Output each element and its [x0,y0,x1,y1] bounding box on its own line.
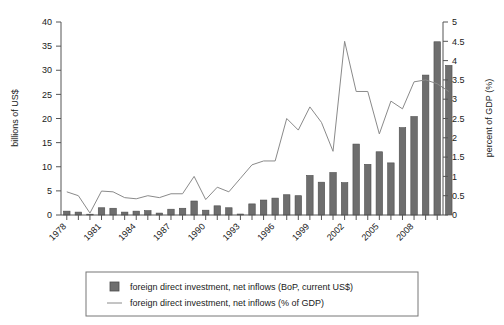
left-tick-label-40: 40 [42,17,52,27]
x-tick-label-1993: 1993 [221,221,242,242]
left-tick-label-5: 5 [47,186,52,196]
left-axis: 0510152025303540 billions of US$ [10,17,61,220]
bar-1998 [295,196,301,215]
right-tick-label-3.5: 3.5 [452,75,465,85]
legend-swatch-icon [110,282,119,291]
bar-1994 [249,204,255,215]
fdi-chart-figure: 0510152025303540 billions of US$ 00.511.… [0,0,504,325]
right-tick-label-5: 5 [452,17,457,27]
bar-2005 [376,152,382,215]
bar-1987 [168,209,174,215]
x-tick-label-1987: 1987 [151,221,172,242]
bar-1985 [145,211,151,215]
x-tick-label-2008: 2008 [394,221,415,242]
x-tick-label-1981: 1981 [82,221,103,242]
bar-1984 [133,211,139,215]
x-axis-tick-labels: 1978198119841987199019931996199920022005… [47,221,416,242]
right-axis-title: percent of GDP (%) [484,79,494,157]
bar-1997 [283,195,289,215]
left-tick-label-25: 25 [42,90,52,100]
bar-1988 [179,208,185,215]
bar-1981 [98,208,104,215]
left-axis-ticks: 0510152025303540 [42,17,61,220]
left-tick-label-15: 15 [42,138,52,148]
right-tick-label-4.5: 4.5 [452,37,465,47]
bar-1978 [64,211,70,215]
legend-label-bars: foreign direct investment, net inflows (… [130,282,353,292]
bar-2000 [318,182,324,215]
bar-2009 [422,75,428,215]
right-tick-label-0.5: 0.5 [452,191,465,201]
bar-1982 [110,208,116,215]
legend-border [86,272,418,316]
bar-1991 [214,206,220,215]
bar-2010 [434,42,440,215]
right-tick-label-2: 2 [452,133,457,143]
bar-1992 [226,208,232,215]
left-axis-title: billions of US$ [10,89,20,147]
x-tick-label-1999: 1999 [290,221,311,242]
bar-series-foreign-direct-investment-bop [64,42,452,215]
x-axis-ticks [67,215,437,220]
left-tick-label-35: 35 [42,41,52,51]
right-tick-label-3: 3 [452,94,457,104]
x-tick-label-2005: 2005 [360,221,381,242]
legend-label-line: foreign direct investment, net inflows (… [130,298,324,308]
bar-2001 [330,173,336,215]
x-tick-label-2002: 2002 [325,221,346,242]
x-tick-label-1984: 1984 [116,221,137,242]
x-tick-label-1990: 1990 [186,221,207,242]
right-tick-label-4: 4 [452,56,457,66]
left-tick-label-30: 30 [42,65,52,75]
bar-2006 [388,163,394,215]
bar-2007 [399,128,405,215]
x-axis: 1978198119841987199019931996199920022005… [47,215,443,243]
legend: foreign direct investment, net inflows (… [86,272,418,316]
right-tick-label-1.5: 1.5 [452,152,465,162]
bar-1999 [307,175,313,215]
right-tick-label-2.5: 2.5 [452,114,465,124]
bar-1989 [191,201,197,215]
bar-2003 [353,144,359,215]
bar-2002 [341,183,347,215]
left-tick-label-0: 0 [47,210,52,220]
right-tick-label-0: 0 [452,210,457,220]
left-tick-label-20: 20 [42,114,52,124]
x-tick-label-1978: 1978 [47,221,68,242]
bar-1995 [260,200,266,215]
plot-area [64,41,452,215]
left-tick-label-10: 10 [42,162,52,172]
bar-1990 [202,210,208,215]
bar-2004 [365,164,371,215]
bar-1996 [272,198,278,215]
bar-2008 [411,117,417,215]
right-tick-label-1: 1 [452,172,457,182]
x-tick-label-1996: 1996 [255,221,276,242]
